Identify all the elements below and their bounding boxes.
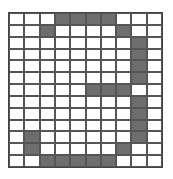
grid-cell-empty <box>101 96 116 108</box>
grid-cell-filled <box>70 155 85 167</box>
grid-cell-filled <box>24 131 39 143</box>
grid-cell-empty <box>24 120 39 132</box>
grid-cell-empty <box>86 60 101 72</box>
grid-cell-filled <box>131 108 146 120</box>
grid-cell-filled <box>131 120 146 132</box>
grid-cell-empty <box>131 155 146 167</box>
grid-cell-filled <box>131 49 146 61</box>
grid-cell-empty <box>55 60 70 72</box>
grid-cell-filled <box>55 13 70 25</box>
grid-cell-empty <box>40 49 55 61</box>
grid-cell-empty <box>55 84 70 96</box>
grid-cell-empty <box>147 108 162 120</box>
grid-cell-empty <box>55 108 70 120</box>
grid-cell-empty <box>147 49 162 61</box>
grid-cell-empty <box>147 143 162 155</box>
grid-cell-filled <box>116 84 131 96</box>
grid-cell-empty <box>101 72 116 84</box>
grid-cell-empty <box>40 84 55 96</box>
grid-cell-empty <box>86 96 101 108</box>
grid-cell-empty <box>55 96 70 108</box>
grid-cell-empty <box>86 143 101 155</box>
grid-cell-filled <box>40 155 55 167</box>
grid-cell-empty <box>101 25 116 37</box>
grid-cell-empty <box>24 60 39 72</box>
grid-cell-empty <box>40 60 55 72</box>
grid-cell-filled <box>116 143 131 155</box>
grid-cell-empty <box>9 60 24 72</box>
grid-cell-empty <box>70 96 85 108</box>
grid-cell-empty <box>55 131 70 143</box>
grid-cell-empty <box>9 37 24 49</box>
grid-cell-empty <box>101 120 116 132</box>
grid-cell-empty <box>86 37 101 49</box>
grid-cell-empty <box>9 108 24 120</box>
grid-cell-empty <box>24 96 39 108</box>
grid-cell-filled <box>86 13 101 25</box>
grid-cell-empty <box>70 131 85 143</box>
grid-cell-empty <box>101 131 116 143</box>
grid-cell-empty <box>101 37 116 49</box>
grid-cell-empty <box>70 72 85 84</box>
grid-cell-filled <box>116 25 131 37</box>
grid-cell-filled <box>131 96 146 108</box>
grid-cell-empty <box>131 143 146 155</box>
grid-cell-empty <box>116 37 131 49</box>
grid-cell-empty <box>55 49 70 61</box>
grid-cell-filled <box>101 13 116 25</box>
grid-cell-empty <box>9 49 24 61</box>
grid-cell-empty <box>116 108 131 120</box>
grid-cell-filled <box>131 131 146 143</box>
grid-cell-empty <box>101 49 116 61</box>
grid-cell-filled <box>86 155 101 167</box>
grid-cell-empty <box>40 96 55 108</box>
grid-cell-empty <box>24 108 39 120</box>
grid-cell-empty <box>55 37 70 49</box>
grid-cell-filled <box>101 155 116 167</box>
grid-cell-empty <box>147 96 162 108</box>
grid-cell-empty <box>9 25 24 37</box>
grid-cell-empty <box>55 72 70 84</box>
grid-cell-empty <box>70 108 85 120</box>
grid-cell-filled <box>55 155 70 167</box>
grid-cell-empty <box>147 25 162 37</box>
grid-cell-empty <box>40 37 55 49</box>
grid-cell-empty <box>147 120 162 132</box>
grid-cell-empty <box>147 60 162 72</box>
grid-cell-empty <box>40 108 55 120</box>
grid-cell-empty <box>101 108 116 120</box>
grid-cell-empty <box>147 131 162 143</box>
grid-cell-empty <box>70 84 85 96</box>
grid-cell-empty <box>116 96 131 108</box>
grid-cell-empty <box>147 155 162 167</box>
grid-cell-empty <box>40 143 55 155</box>
grid-cell-empty <box>131 84 146 96</box>
grid-cell-empty <box>24 84 39 96</box>
pixel-grid <box>8 12 163 168</box>
grid-cell-filled <box>24 143 39 155</box>
grid-cell-empty <box>70 60 85 72</box>
grid-cell-empty <box>116 120 131 132</box>
grid-cell-empty <box>9 96 24 108</box>
grid-cell-empty <box>9 120 24 132</box>
grid-cell-empty <box>116 13 131 25</box>
grid-cell-empty <box>9 143 24 155</box>
grid-cell-filled <box>40 25 55 37</box>
grid-cell-empty <box>24 13 39 25</box>
grid-cell-empty <box>116 155 131 167</box>
grid-cell-empty <box>55 120 70 132</box>
grid-cell-empty <box>24 49 39 61</box>
grid-cell-empty <box>147 84 162 96</box>
grid-cell-empty <box>9 72 24 84</box>
grid-cell-empty <box>9 155 24 167</box>
grid-cell-empty <box>116 49 131 61</box>
grid-cell-empty <box>147 37 162 49</box>
grid-cell-empty <box>147 13 162 25</box>
grid-cell-empty <box>86 131 101 143</box>
grid-cell-filled <box>131 37 146 49</box>
grid-cell-filled <box>70 13 85 25</box>
grid-cell-empty <box>24 37 39 49</box>
grid-cell-empty <box>116 131 131 143</box>
grid-cell-filled <box>101 84 116 96</box>
grid-cell-empty <box>86 25 101 37</box>
